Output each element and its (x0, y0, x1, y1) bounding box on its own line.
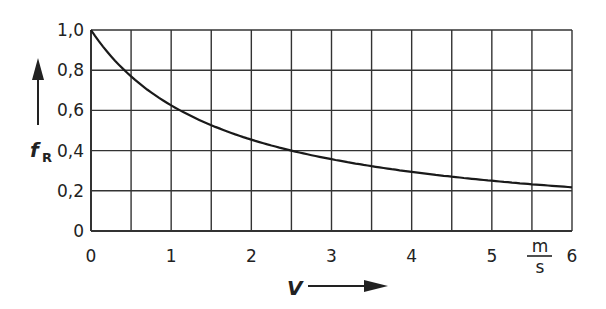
svg-text:0,8: 0,8 (57, 60, 84, 80)
arrow-up-icon (32, 58, 44, 80)
y-label-subscript: R (42, 150, 52, 165)
svg-text:1,0: 1,0 (57, 20, 84, 40)
arrow-right-icon (364, 280, 388, 292)
x-unit: m s (527, 236, 552, 277)
svg-text:4: 4 (406, 246, 417, 266)
svg-text:6: 6 (567, 246, 578, 266)
svg-text:0,2: 0,2 (57, 181, 84, 201)
x-axis-label: V (287, 276, 388, 300)
svg-text:0,6: 0,6 (57, 100, 84, 120)
svg-text:5: 5 (486, 246, 497, 266)
svg-text:0: 0 (86, 246, 97, 266)
unit-denominator: s (536, 257, 545, 277)
x-tick-labels: 0123456 (86, 246, 578, 266)
svg-text:2: 2 (246, 246, 257, 266)
svg-text:3: 3 (326, 246, 337, 266)
grid (91, 30, 572, 231)
svg-text:1: 1 (166, 246, 177, 266)
x-label-text: V (287, 276, 304, 300)
y-axis-label: f R (30, 58, 52, 165)
svg-text:0,4: 0,4 (57, 141, 84, 161)
y-label-text: f (30, 138, 41, 162)
y-tick-labels: 00,20,40,60,81,0 (57, 20, 84, 241)
chart: 00,20,40,60,81,0 0123456 f R V m s (0, 0, 606, 309)
svg-text:0: 0 (73, 221, 84, 241)
unit-numerator: m (532, 236, 549, 256)
